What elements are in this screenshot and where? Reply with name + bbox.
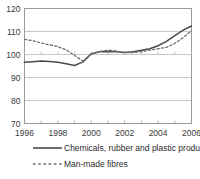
y-axis-tick-label: 110 [7,27,21,37]
x-axis-tick-label: 2004 [149,128,168,138]
plot-area-border [25,9,192,124]
x-axis-ticks [25,52,192,124]
x-axis-tick-label: 1996 [15,128,34,138]
x-axis-tick-label: 1998 [48,128,67,138]
x-axis-tick-label: 2000 [82,128,101,138]
series-line-man-made-fibres [25,31,192,61]
legend-label-man-made-fibres: Man-made fibres [64,159,128,169]
series-line-chemicals [25,26,192,66]
data-series-layer [25,26,192,66]
legend-label-chemicals: Chemicals, rubber and plastic products [64,143,200,153]
x-axis-labels: 199619982000200220042006 [15,128,200,138]
chart-container: 708090100110120 199619982000200220042006… [0,0,200,179]
x-axis-tick-label: 2006 [182,128,200,138]
y-axis-tick-label: 120 [6,4,20,14]
chart-legend: Chemicals, rubber and plastic productsMa… [33,143,200,169]
line-chart: 708090100110120 199619982000200220042006… [0,0,200,179]
y-axis-labels: 708090100110120 [6,4,20,129]
y-axis-tick-label: 90 [11,73,21,83]
x-axis-tick-label: 2002 [115,128,134,138]
y-axis-tick-label: 80 [11,96,21,106]
y-axis-tick-label: 100 [6,50,20,60]
